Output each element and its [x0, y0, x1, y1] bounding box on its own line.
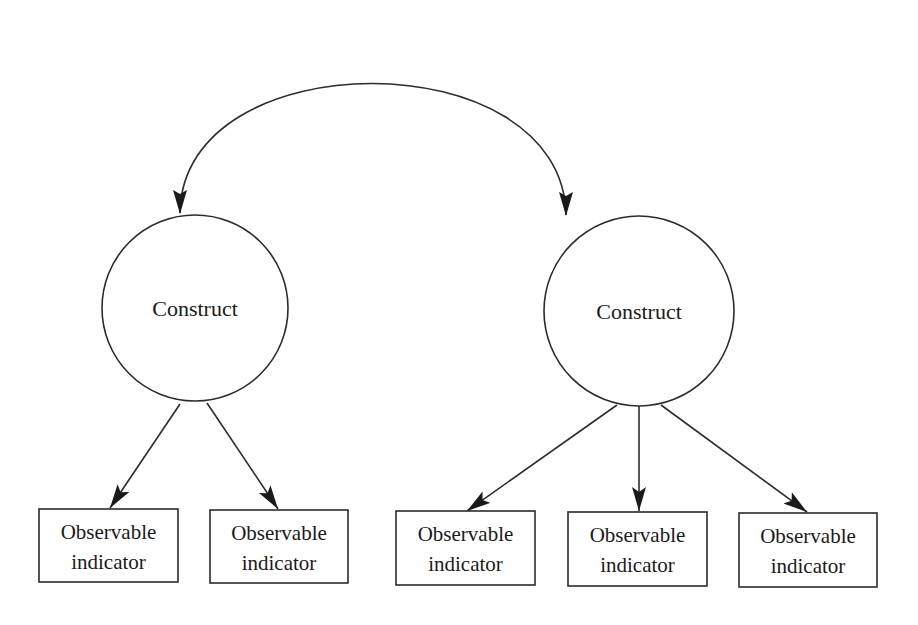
arrowhead-icon: [559, 192, 573, 216]
indicator-node: Observable indicator: [39, 509, 178, 582]
indicator-label-line1: Observable: [590, 523, 686, 547]
indicator-label-line2: indicator: [600, 553, 675, 577]
construct-node: Construct: [102, 215, 288, 401]
loading-arrow: [207, 403, 278, 509]
indicator-label-line2: indicator: [71, 550, 146, 574]
correlation-arc: [180, 83, 566, 215]
indicator-label-line1: Observable: [418, 522, 514, 546]
indicator-label-line1: Observable: [231, 521, 327, 545]
indicator-node: Observable indicator: [210, 510, 348, 583]
indicator-label-line1: Observable: [61, 520, 157, 544]
construct-label: Construct: [152, 296, 238, 321]
loading-arrow: [467, 405, 617, 511]
indicator-label-line2: indicator: [428, 552, 503, 576]
diagram-canvas: Construct Construct Observable indicator…: [0, 0, 918, 625]
indicator-label-line2: indicator: [242, 551, 317, 575]
construct-node: Construct: [544, 216, 734, 406]
arrowhead-icon: [173, 190, 187, 214]
indicator-node: Observable indicator: [568, 512, 707, 586]
indicator-label-line2: indicator: [771, 554, 846, 578]
indicator-node: Observable indicator: [396, 511, 535, 585]
loading-arrow: [661, 405, 807, 512]
construct-label: Construct: [596, 299, 682, 324]
indicator-label-line1: Observable: [760, 524, 856, 548]
loading-arrow: [110, 404, 180, 508]
indicator-node: Observable indicator: [739, 513, 877, 587]
